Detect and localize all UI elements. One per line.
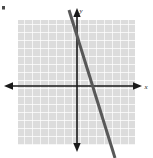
y-axis-label: y xyxy=(79,7,84,15)
x-axis-label: x xyxy=(143,83,148,91)
scan-artifact-speck xyxy=(2,6,5,10)
y-axis-bottom-arrowhead xyxy=(73,143,80,152)
coordinate-graph-figure: y x xyxy=(0,0,153,158)
graph-canvas: y x xyxy=(0,0,153,158)
x-axis-right-arrowhead xyxy=(133,82,142,90)
x-axis-left-arrowhead xyxy=(4,82,13,90)
